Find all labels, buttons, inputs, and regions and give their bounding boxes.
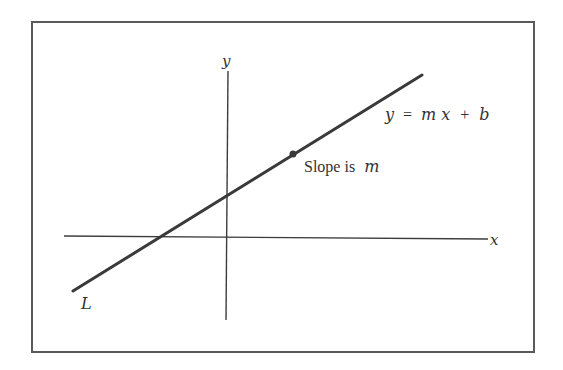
coordinate-plane-diagram: x y L y = m x + b Slope is m xyxy=(0,0,563,370)
equation-b: b xyxy=(479,105,489,124)
x-axis xyxy=(64,236,488,239)
figure-frame xyxy=(32,22,534,352)
x-axis-label: x xyxy=(490,231,499,249)
equation-x: x xyxy=(441,105,450,124)
line-L xyxy=(73,75,422,291)
slope-annotation-var: m xyxy=(364,157,379,176)
equation-equals: = xyxy=(403,106,412,123)
slope-point-marker xyxy=(290,151,297,158)
y-axis-label: y xyxy=(221,52,231,70)
slope-annotation: Slope is m xyxy=(304,157,379,176)
line-L-label: L xyxy=(80,294,92,313)
equation-lhs: y xyxy=(384,105,395,124)
slope-annotation-text: Slope is xyxy=(304,158,355,176)
equation-m: m xyxy=(421,105,436,124)
line-equation-label: y = m x + b xyxy=(384,105,490,124)
equation-plus: + xyxy=(460,106,469,123)
